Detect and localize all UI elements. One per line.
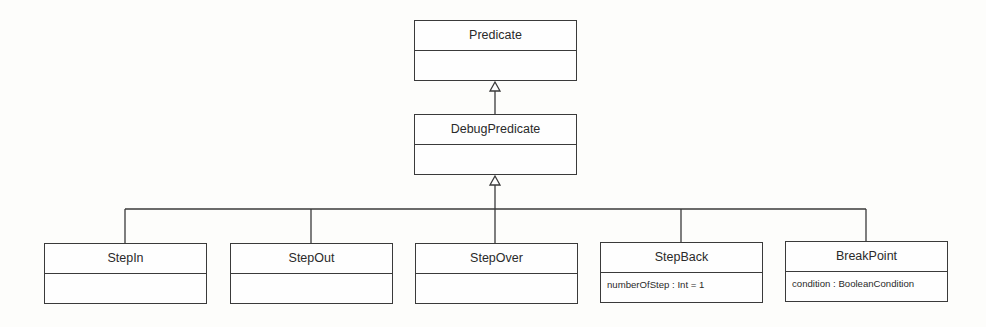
attribute-condition: condition : BooleanCondition	[792, 278, 914, 289]
class-name: StepIn	[45, 244, 206, 274]
class-attributes: numberOfStep : Int = 1	[601, 273, 762, 290]
class-name: StepOut	[231, 244, 392, 274]
class-name: BreakPoint	[786, 242, 947, 272]
class-attributes	[415, 145, 576, 151]
class-name: Predicate	[415, 21, 576, 51]
class-step-out: StepOut	[230, 243, 393, 304]
attribute-number-of-step: numberOfStep : Int = 1	[607, 279, 704, 290]
generalization-arrow-icon	[490, 176, 500, 185]
class-step-in: StepIn	[44, 243, 207, 304]
class-attributes	[231, 274, 392, 280]
class-step-over: StepOver	[415, 243, 578, 304]
class-name: StepOver	[416, 244, 577, 274]
class-name: StepBack	[601, 243, 762, 273]
class-debug-predicate: DebugPredicate	[414, 114, 577, 175]
class-break-point: BreakPoint condition : BooleanCondition	[785, 241, 948, 302]
class-step-back: StepBack numberOfStep : Int = 1	[600, 242, 763, 303]
class-predicate: Predicate	[414, 20, 577, 81]
class-attributes: condition : BooleanCondition	[786, 272, 947, 289]
class-attributes	[45, 274, 206, 280]
class-attributes	[416, 274, 577, 280]
class-attributes	[415, 51, 576, 57]
class-name: DebugPredicate	[415, 115, 576, 145]
generalization-arrow-icon	[490, 82, 500, 91]
